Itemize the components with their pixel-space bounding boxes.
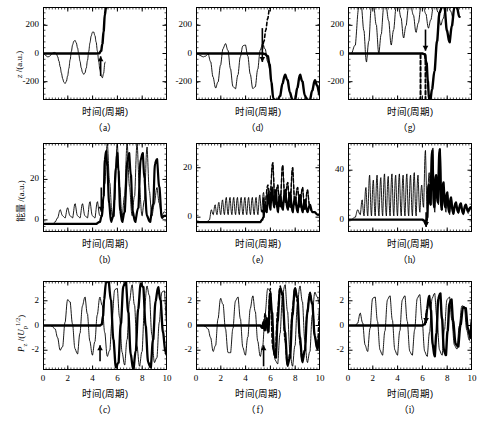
axis-ticks <box>196 143 320 232</box>
axes-frame <box>197 144 320 232</box>
x-tick-label: 8 <box>435 373 459 383</box>
plot-panel-c <box>43 281 167 370</box>
y-tick-label: 0 <box>160 320 192 330</box>
plot-svg-a <box>43 7 167 100</box>
x-tick-label: 8 <box>130 373 154 383</box>
x-tick-label: 0 <box>31 373 55 383</box>
x-axis-label-c: 时间(周期) <box>60 386 150 400</box>
x-tick-label: 0 <box>184 373 208 383</box>
panel-tag-a: （a） <box>75 120 135 134</box>
y-tick-label: -2 <box>160 344 192 354</box>
plot-panel-a <box>43 7 167 100</box>
plot-svg-b <box>43 143 167 232</box>
panel-tag-e: （e） <box>228 252 288 266</box>
data-series-group <box>196 163 320 222</box>
y-tick-label: 2 <box>7 295 39 305</box>
y-tick-label: 20 <box>7 173 39 183</box>
data-series-group <box>43 143 167 224</box>
series-dashed-divergent <box>262 7 271 49</box>
panel-tag-c: （c） <box>75 402 135 416</box>
x-tick-label: 6 <box>410 373 434 383</box>
series-momentum-thick <box>43 281 167 370</box>
data-series-group <box>348 293 472 356</box>
series-momentum-thick <box>348 293 472 356</box>
y-tick-label: 0 <box>312 48 344 58</box>
annotation-arrow <box>97 345 103 361</box>
annotation-arrow <box>423 313 429 323</box>
plot-svg-c <box>43 281 167 370</box>
plot-svg-g <box>348 7 472 100</box>
x-axis-label-a: 时间(周期) <box>60 104 150 118</box>
plot-panel-h <box>348 143 472 232</box>
x-tick-label: 4 <box>234 373 258 383</box>
panel-tag-g: （g） <box>380 120 440 134</box>
data-series-group <box>348 148 472 225</box>
panel-tag-d: （d） <box>228 120 288 134</box>
plot-svg-f <box>196 281 320 370</box>
plot-panel-b <box>43 143 167 232</box>
plot-panel-g <box>348 7 472 100</box>
y-tick-label: -200 <box>7 76 39 86</box>
series-ionization-trajectory <box>43 7 107 54</box>
data-series-group <box>43 7 107 83</box>
y-tick-label: -200 <box>312 76 344 86</box>
data-series-group <box>43 281 167 370</box>
plot-svg-e <box>196 143 320 232</box>
x-axis-label-f: 时间(周期) <box>213 386 303 400</box>
x-tick-label: 10 <box>460 373 481 383</box>
x-tick-label: 4 <box>386 373 410 383</box>
annotation-arrow <box>260 28 266 62</box>
series-ionization-trajectory <box>196 54 320 101</box>
x-tick-label: 10 <box>155 373 179 383</box>
data-series-group <box>196 7 320 100</box>
x-axis-label-d: 时间(周期) <box>213 104 303 118</box>
plot-svg-d <box>196 7 320 100</box>
y-tick-label: 0 <box>312 214 344 224</box>
series-ionization-trajectory <box>348 7 460 100</box>
x-axis-label-h: 时间(周期) <box>365 236 455 250</box>
figure-container: z /(a.u.) 能量 /(a.u.) Pz /(Up1/2) -200020… <box>0 0 481 427</box>
y-tick-label: 2 <box>312 295 344 305</box>
y-tick-label: 40 <box>312 164 344 174</box>
x-tick-label: 8 <box>283 373 307 383</box>
x-tick-label: 0 <box>336 373 360 383</box>
x-axis-label-b: 时间(周期) <box>60 236 150 250</box>
y-tick-label: -2 <box>7 344 39 354</box>
plot-panel-e <box>196 143 320 232</box>
y-tick-label: -200 <box>160 76 192 86</box>
plot-panel-f <box>196 281 320 370</box>
y-tick-label: 0 <box>160 48 192 58</box>
x-tick-label: 2 <box>209 373 233 383</box>
y-tick-label: 0 <box>7 214 39 224</box>
series-oscillating-trajectory <box>196 44 270 89</box>
y-tick-label: 0 <box>7 320 39 330</box>
plot-svg-h <box>348 143 472 232</box>
plot-panel-i <box>348 281 472 370</box>
plot-svg-i <box>348 281 472 370</box>
x-tick-label: 4 <box>81 373 105 383</box>
x-tick-label: 6 <box>258 373 282 383</box>
panel-tag-f: （f） <box>228 402 288 416</box>
series-oscillating-trajectory <box>43 32 105 83</box>
x-tick-label: 2 <box>361 373 385 383</box>
data-series-group <box>196 285 320 367</box>
y-tick-label: 200 <box>312 19 344 29</box>
y-tick-label: 20 <box>160 162 192 172</box>
x-tick-label: 10 <box>308 373 332 383</box>
plot-panel-d <box>196 7 320 100</box>
y-tick-label: 0 <box>312 320 344 330</box>
y-tick-label: 200 <box>7 19 39 29</box>
panel-tag-h: （h） <box>380 252 440 266</box>
x-axis-label-g: 时间(周期) <box>365 104 455 118</box>
x-tick-label: 6 <box>105 373 129 383</box>
x-tick-label: 2 <box>56 373 80 383</box>
y-tick-label: 0 <box>160 211 192 221</box>
y-tick-label: 200 <box>160 19 192 29</box>
data-series-group <box>348 7 460 100</box>
x-axis-label-e: 时间(周期) <box>213 236 303 250</box>
panel-tag-b: （b） <box>75 252 135 266</box>
panel-tag-i: （i） <box>380 402 440 416</box>
y-tick-label: 0 <box>7 48 39 58</box>
annotation-arrow <box>423 30 429 51</box>
x-axis-label-i: 时间(周期) <box>365 386 455 400</box>
